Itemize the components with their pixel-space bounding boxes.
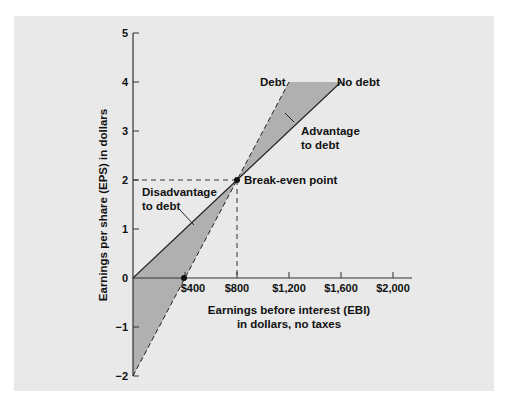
svg-text:−2: −2: [115, 370, 128, 382]
y-axis-title: Earnings per share (EPS) in dollars: [97, 109, 109, 301]
svg-text:$400: $400: [181, 282, 205, 294]
x-axis-title: Earnings before interest (EBI) in dollar…: [208, 304, 370, 330]
no-debt-label: No debt: [337, 76, 380, 88]
svg-text:1: 1: [122, 223, 128, 235]
disadvantage-label-2: to debt: [142, 200, 180, 212]
x-tick-labels: $400 $800 $1,200 $1,600 $2,000: [181, 282, 410, 294]
debt-label: Debt: [260, 76, 286, 88]
svg-text:4: 4: [122, 76, 129, 88]
x-ticks: [185, 272, 393, 278]
break-even-point: [234, 177, 240, 183]
svg-text:$1,200: $1,200: [272, 282, 306, 294]
break-even-label: Break-even point: [244, 174, 337, 186]
svg-text:3: 3: [122, 125, 128, 137]
chart: 5 4 3 2 1 0 −1 −2 $400 $800 $1,200 $1,60…: [0, 0, 508, 402]
svg-text:in dollars, no taxes: in dollars, no taxes: [237, 318, 341, 330]
svg-text:5: 5: [122, 27, 128, 39]
svg-text:$800: $800: [225, 282, 249, 294]
disadvantage-pointer: [180, 210, 194, 225]
y-tick-labels: 5 4 3 2 1 0 −1 −2: [115, 27, 128, 382]
svg-text:2: 2: [122, 174, 128, 186]
advantage-label-2: to debt: [301, 139, 339, 151]
disadvantage-label-1: Disadvantage: [142, 186, 217, 198]
advantage-label-1: Advantage: [301, 125, 360, 137]
svg-text:0: 0: [122, 272, 128, 284]
zero-eps-point: [181, 275, 187, 281]
svg-text:$2,000: $2,000: [376, 282, 410, 294]
svg-text:$1,600: $1,600: [324, 282, 358, 294]
svg-text:−1: −1: [115, 321, 128, 333]
svg-text:Earnings before interest (EBI): Earnings before interest (EBI): [208, 304, 370, 316]
